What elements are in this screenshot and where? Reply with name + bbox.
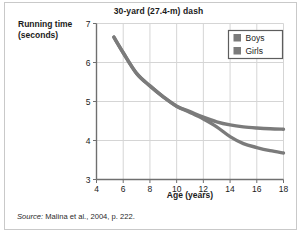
legend-label-boys: Boys bbox=[246, 33, 265, 43]
y-axis-tick-label: 7 bbox=[86, 19, 91, 29]
chart-legend: BoysGirls bbox=[229, 31, 283, 59]
source-note-keyword: Source: bbox=[17, 212, 43, 221]
y-axis-tick-label: 6 bbox=[86, 58, 91, 68]
y-axis-tick-label: 5 bbox=[86, 97, 91, 107]
x-axis-label: Age (years) bbox=[96, 190, 284, 200]
legend-swatch-boys bbox=[234, 34, 242, 42]
legend-swatch-girls bbox=[234, 47, 242, 55]
y-axis-tick-label: 4 bbox=[86, 136, 91, 146]
source-note-text: Malina et al., 2004, p. 222. bbox=[43, 212, 135, 221]
source-note: Source: Malina et al., 2004, p. 222. bbox=[17, 212, 135, 221]
figure-container: 30-yard (27.4-m) dash Running time (seco… bbox=[0, 0, 301, 233]
y-axis-tick-label: 3 bbox=[86, 175, 91, 185]
legend-label-girls: Girls bbox=[246, 46, 263, 56]
